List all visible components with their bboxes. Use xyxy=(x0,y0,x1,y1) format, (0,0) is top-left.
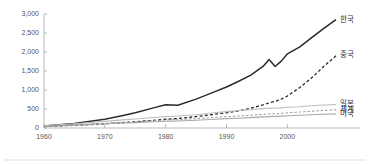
y-tick-label: 500 xyxy=(27,105,39,112)
y-axis-ticks xyxy=(44,14,47,128)
series-line-4 xyxy=(44,114,336,127)
y-axis-group: 05001,0001,5002,0002,5003,000 xyxy=(21,10,47,131)
x-axis-tick-labels: 19601970198019902000 xyxy=(36,133,295,140)
series-line-0 xyxy=(44,20,336,126)
y-tick-label: 1,000 xyxy=(21,86,39,93)
line-chart: 05001,0001,5002,0002,5003,000 1960197019… xyxy=(0,0,370,164)
y-tick-label: 3,000 xyxy=(21,10,39,17)
series-line-3 xyxy=(44,110,336,127)
series-inline-labels: 한국중국일본세계미국 xyxy=(340,15,354,118)
x-tick-label: 1990 xyxy=(219,133,235,140)
chart-canvas: 05001,0001,5002,0002,5003,000 1960197019… xyxy=(0,0,370,164)
y-axis-tick-labels: 05001,0001,5002,0002,5003,000 xyxy=(21,10,39,131)
x-tick-label: 1960 xyxy=(36,133,52,140)
x-tick-label: 2000 xyxy=(280,133,296,140)
x-tick-label: 1970 xyxy=(97,133,113,140)
x-tick-label: 1980 xyxy=(158,133,174,140)
series-lines xyxy=(44,20,336,127)
y-tick-label: 2,000 xyxy=(21,48,39,55)
y-tick-label: 0 xyxy=(35,124,39,131)
series-label-4: 미국 xyxy=(340,109,354,118)
series-label-1: 중국 xyxy=(340,50,354,59)
y-tick-label: 2,500 xyxy=(21,29,39,36)
y-tick-label: 1,500 xyxy=(21,67,39,74)
series-label-0: 한국 xyxy=(340,15,354,24)
x-axis-group: 19601970198019902000 xyxy=(36,124,360,140)
